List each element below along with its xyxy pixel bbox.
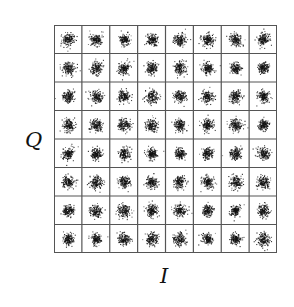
q-axis-label: Q bbox=[25, 130, 42, 151]
plot-frame bbox=[54, 25, 277, 253]
constellation-figure: Q I bbox=[0, 0, 294, 307]
i-axis-label: I bbox=[160, 266, 168, 287]
